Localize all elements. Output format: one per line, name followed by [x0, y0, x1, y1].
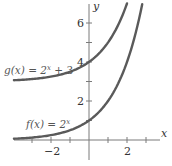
curve-label-g-suffix: + 3 — [51, 64, 73, 76]
x-tick-labels: −22 — [44, 145, 131, 158]
x-axis-label: x — [161, 127, 168, 140]
exponential-graph: −22 246 x y g(x) = 2x + 3 f(x) = 2x — [0, 0, 172, 166]
curve-label-g-base: g(x) = 2 — [4, 64, 47, 76]
y-tick-label: 2 — [77, 95, 84, 108]
curve-label-f-exponent: x — [66, 118, 70, 126]
x-tick-label: −2 — [44, 145, 60, 158]
curve-label-g: g(x) = 2x + 3 — [4, 64, 73, 76]
y-tick-label: 6 — [77, 17, 84, 30]
x-tick-label: 2 — [124, 145, 131, 158]
curve-label-f: f(x) = 2x — [25, 118, 70, 130]
curve-label-f-base: f(x) = 2 — [25, 118, 66, 130]
y-tick-labels: 246 — [77, 17, 84, 108]
y-axis-label: y — [92, 0, 100, 13]
